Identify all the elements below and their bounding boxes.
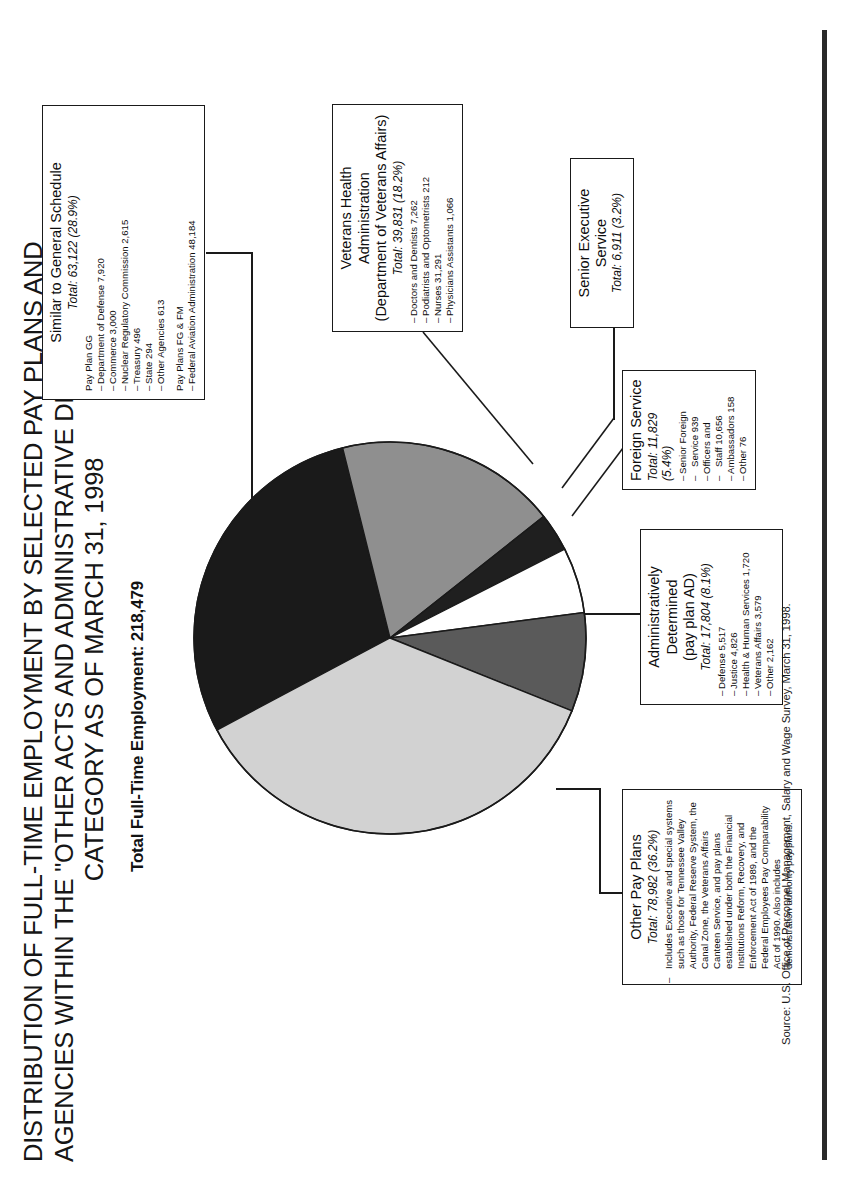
list-item: –Other 2,162 <box>764 538 776 696</box>
list-item: –Physicians Assistants 1,066 <box>444 113 456 323</box>
callout-total: Total: 17,804 (8.1%) <box>699 538 713 696</box>
pay-plan-gg-list: –Department of Defense 7,920 –Commerce 3… <box>95 114 167 391</box>
list-item: –Defense 5,517 <box>716 538 728 696</box>
callout-title: Senior Executive Service <box>576 167 609 319</box>
list-item: –Commerce 3,000 <box>107 114 119 391</box>
other-pay-plans-note: –Includes Executive and special systems … <box>663 798 796 976</box>
list-item: –Treasury 496 <box>131 114 143 391</box>
list-item: –Department of Defense 7,920 <box>95 114 107 391</box>
callout-administratively-determined: Administratively Determined (pay plan AD… <box>640 529 783 705</box>
page-bottom-rule <box>822 30 827 1160</box>
callout-title: Foreign Service <box>628 379 645 481</box>
list-item: –Other Agencies 613 <box>155 114 167 391</box>
callout-similar-to-general-schedule: Similar to General Schedule Total: 63,12… <box>42 105 205 400</box>
list-item: –Other 76 <box>737 379 749 481</box>
leader-line-veterans-health <box>415 320 545 500</box>
callout-title-line-3: (pay plan AD) <box>681 538 698 696</box>
foreign-service-list: –Senior Foreign –Service 939 –Officers a… <box>677 379 749 481</box>
list-item: –Nuclear Regulatory Commission 2,615 <box>119 114 131 391</box>
list-item: –Health & Human Services 1,720 <box>740 538 752 696</box>
leader-line-similar-to-gs-v <box>206 252 252 254</box>
leader-line-admin-determined-v <box>585 613 640 615</box>
callout-total: Total: 39,831 (18.2%) <box>391 113 405 323</box>
callout-senior-executive-service: Senior Executive Service Total: 6,911 (3… <box>570 158 634 328</box>
callout-total: Total: 11,829 (5.4%) <box>646 379 674 481</box>
callout-title-line-2: Determined <box>664 538 681 696</box>
leader-line-foreign-service <box>570 438 630 518</box>
pay-plans-fg-fm-list: –Federal Aviation Administration 48,184 <box>186 114 198 391</box>
pay-plan-gg-label: Pay Plan GG <box>83 114 95 391</box>
leader-line-similar-to-gs-h <box>251 252 253 570</box>
list-item: –Ambassadors 158 <box>725 379 737 481</box>
list-item: –Justice 4,826 <box>728 538 740 696</box>
callout-title: Similar to General Schedule <box>48 114 65 391</box>
list-item: –Service 939 <box>689 379 701 481</box>
list-item: –Senior Foreign <box>677 379 689 481</box>
list-item: –Nurses 31,291 <box>432 113 444 323</box>
leader-line-other-pay-plans-v <box>556 788 600 790</box>
callout-other-pay-plans: Other Pay Plans Total: 78,982 (36.2%) –I… <box>622 789 802 985</box>
administratively-determined-list: –Defense 5,517 –Justice 4,826 –Health & … <box>716 538 776 696</box>
source-note: Source: U.S. Office of Personnel Managem… <box>780 603 792 1045</box>
list-item: –Veterans Affairs 3,579 <box>752 538 764 696</box>
list-item: –Podiatrists and Optometrists 212 <box>420 113 432 323</box>
list-item: –Doctors and Dentists 7,262 <box>408 113 420 323</box>
list-item: –Staff 10,656 <box>713 379 725 481</box>
leader-line-other-pay-plans-drop <box>599 892 623 894</box>
callout-total: Total: 78,982 (36.2%) <box>646 798 660 976</box>
callout-title-line-1: Administratively <box>646 538 663 696</box>
pay-plans-fg-fm-label: Pay Plans FG & FM <box>174 114 186 391</box>
list-item: –Federal Aviation Administration 48,184 <box>186 114 198 391</box>
veterans-health-list: –Doctors and Dentists 7,262 –Podiatrists… <box>408 113 456 323</box>
callout-total: Total: 6,911 (3.2%) <box>610 167 624 319</box>
scanned-page: DISTRIBUTION OF FULL-TIME EMPLOYMENT BY … <box>0 0 857 1190</box>
list-item: –Officers and <box>701 379 713 481</box>
callout-title-line-3: (Department of Veterans Affairs) <box>373 113 390 323</box>
callout-title-line-1: Veterans Health <box>338 113 355 323</box>
list-item: –State 294 <box>143 114 155 391</box>
total-employment-label: Total Full-Time Employment: 218,479 <box>128 581 148 872</box>
callout-veterans-health-administration: Veterans Health Administration (Departme… <box>332 104 463 332</box>
callout-title: Other Pay Plans <box>628 798 645 976</box>
callout-foreign-service: Foreign Service Total: 11,829 (5.4%) –Se… <box>622 370 756 490</box>
leader-line-other-pay-plans-h <box>599 788 601 894</box>
leader-line-similar-to-gs-drop <box>251 568 277 570</box>
poster: DISTRIBUTION OF FULL-TIME EMPLOYMENT BY … <box>0 0 857 1190</box>
callout-total: Total: 63,122 (28.9%) <box>66 114 80 391</box>
callout-title-line-2: Administration <box>356 113 373 323</box>
leader-line-senior-executive <box>613 328 615 420</box>
